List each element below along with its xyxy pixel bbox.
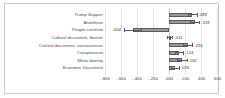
- error-bar: [190, 22, 200, 23]
- error-cap-high: [199, 21, 200, 25]
- x-tick-label: -.800: [98, 76, 112, 81]
- value-label: .162: [189, 58, 197, 63]
- x-tick-label: -.600: [114, 76, 128, 81]
- error-cap-high: [141, 28, 142, 32]
- category-label: Conspiracism: [77, 50, 103, 55]
- error-cap-low: [167, 36, 168, 40]
- error-cap-high: [192, 43, 193, 47]
- gridline: [105, 8, 106, 75]
- error-bar: [171, 68, 178, 69]
- value-label: -.454: [111, 27, 121, 32]
- category-label: Trump Support: [75, 12, 104, 17]
- value-label: .124: [185, 50, 193, 55]
- x-tick-label: .200: [178, 76, 192, 81]
- error-cap-low: [124, 28, 125, 32]
- value-label: .076: [181, 65, 189, 70]
- x-tick-label: .600: [210, 76, 224, 81]
- gridline: [201, 8, 202, 75]
- error-cap-low: [171, 66, 172, 70]
- error-cap-low: [177, 59, 178, 63]
- error-bar: [188, 14, 197, 15]
- error-cap-low: [175, 51, 176, 55]
- error-cap-high: [197, 13, 198, 17]
- gridline: [121, 8, 122, 75]
- error-cap-high: [179, 66, 180, 70]
- chart-frame: Trump Support.288Antielitism.319People-c…: [4, 3, 219, 94]
- error-cap-low: [188, 13, 189, 17]
- gridline: [217, 8, 218, 75]
- error-bar: [124, 30, 141, 31]
- x-tick-label: -.400: [130, 76, 144, 81]
- gridline: [137, 8, 138, 75]
- value-label: .288: [199, 12, 207, 17]
- zero-gridline: [169, 8, 170, 75]
- category-label: Economic Discontent: [63, 65, 103, 70]
- gridline: [153, 8, 154, 75]
- error-cap-high: [172, 36, 173, 40]
- category-label: White Identity: [77, 58, 103, 63]
- value-label: .234: [194, 43, 202, 48]
- x-tick-label: .000: [162, 76, 176, 81]
- category-label: Cultural discontent, conservatives: [39, 43, 103, 48]
- error-bar: [183, 45, 192, 46]
- error-cap-high: [183, 51, 184, 55]
- error-cap-high: [187, 59, 188, 63]
- error-bar: [175, 52, 183, 53]
- value-label: .319: [201, 20, 209, 25]
- x-tick-label: .400: [194, 76, 208, 81]
- error-cap-low: [183, 43, 184, 47]
- category-label: People-centrism: [72, 27, 103, 32]
- bar-chart-plot: Trump Support.288Antielitism.319People-c…: [5, 4, 220, 95]
- value-label: .011: [174, 35, 182, 40]
- category-label: Antielitism: [83, 20, 103, 25]
- category-label: Cultural discontent, liberals: [51, 35, 103, 40]
- x-tick-label: -.200: [146, 76, 160, 81]
- error-cap-low: [190, 21, 191, 25]
- error-bar: [177, 60, 186, 61]
